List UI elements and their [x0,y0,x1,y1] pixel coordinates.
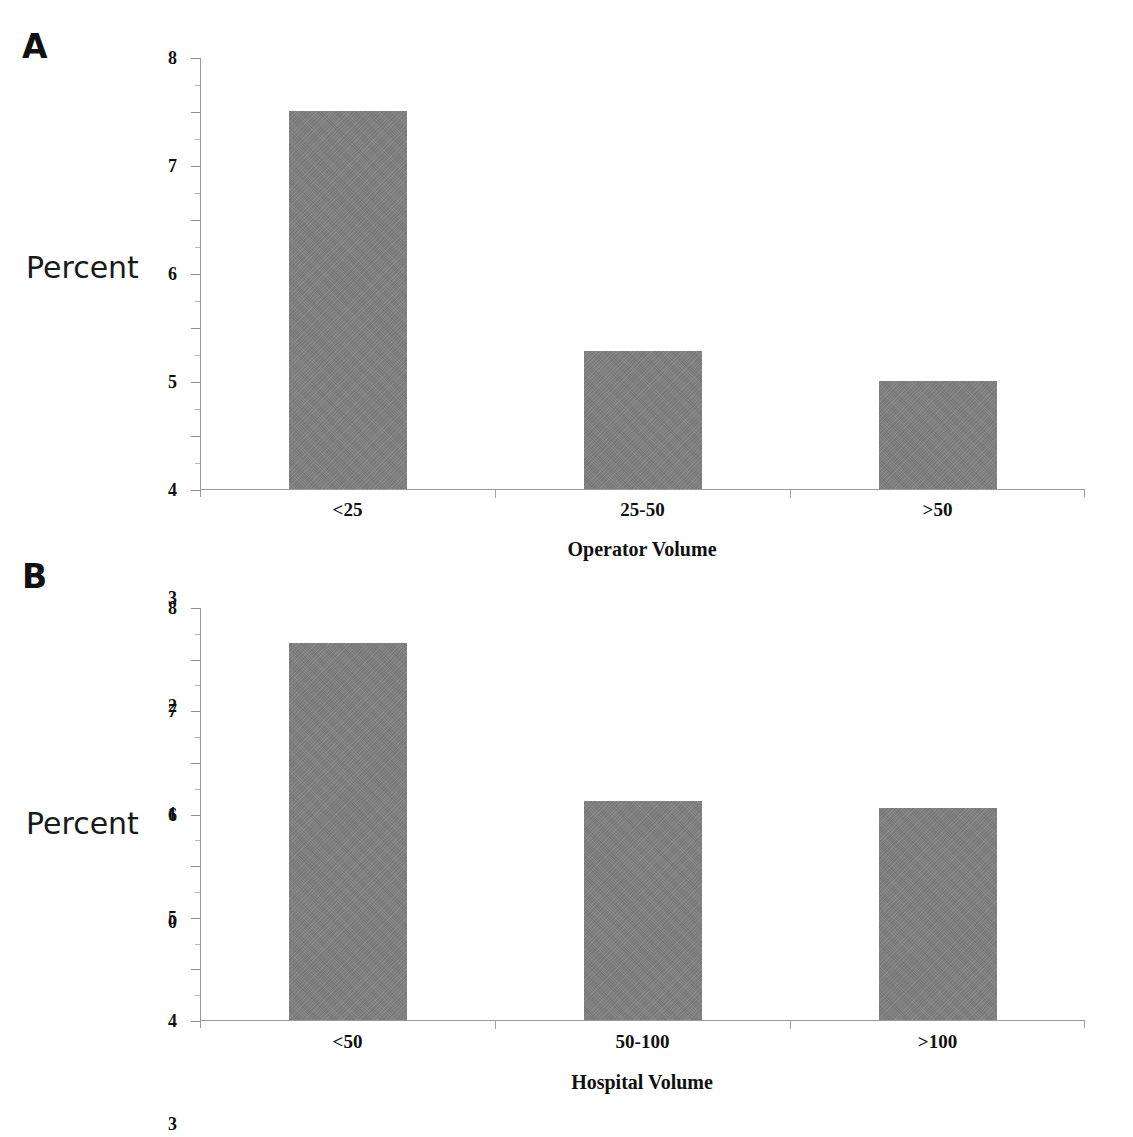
y-tick-major: 0 [191,1021,200,1022]
bar [289,643,407,1020]
y-axis-title-b: Percent [26,809,139,839]
y-axis-line-a [200,58,201,490]
y-tick-minor [195,840,200,841]
bar [584,351,702,489]
y-tick-label: 8 [168,49,177,67]
y-tick-minor [195,685,200,686]
y-tick-label: 4 [168,1012,177,1030]
y-axis-title-a: Percent [26,253,139,283]
y-tick-major: 5 [191,763,200,764]
y-tick-minor [195,737,200,738]
x-separator-tick [790,489,791,498]
y-tick-minor [195,789,200,790]
category-label: <50 [333,1032,363,1051]
y-tick-major: 3 [191,866,200,867]
x-axis-title-b: Hospital Volume [571,1072,713,1092]
y-tick-minor [195,193,200,194]
bar [289,111,407,489]
panel-b: B Percent 012345678 <5050-100>100 Hospit… [0,550,1133,1137]
y-tick-label: 4 [168,481,177,499]
y-axis-line-b [200,608,201,1021]
y-tick-label: 7 [168,702,177,720]
panel-letter-b: B [22,560,47,593]
x-separator-tick [495,1020,496,1029]
y-tick-major: 7 [191,660,200,661]
category-label: <25 [333,500,363,519]
y-tick-major: 1 [191,436,200,437]
category-label: 50-100 [616,1032,670,1051]
figure-two-panel-bar-charts: A Percent 012345678 <2525-50>50 Operator… [0,0,1133,1137]
bar [584,801,702,1020]
x-separator-tick [790,1020,791,1029]
y-tick-major: 8 [191,608,200,609]
y-tick-minor [195,944,200,945]
x-axis-line-b [200,1020,1085,1021]
y-tick-major: 4 [191,274,200,275]
category-label: >100 [918,1032,957,1051]
panel-letter-a: A [22,30,48,63]
y-tick-minor [195,409,200,410]
y-tick-label: 6 [168,806,177,824]
x-axis-left-stub-a [200,489,201,497]
x-axis-line-a [200,489,1085,490]
x-axis-right-stub-b [1084,1020,1085,1028]
y-tick-label: 8 [168,599,177,617]
y-tick-minor [195,85,200,86]
category-label: >50 [923,500,953,519]
bar [879,808,997,1020]
y-tick-major: 2 [191,382,200,383]
y-tick-major: 1 [191,969,200,970]
y-tick-minor [195,301,200,302]
y-tick-minor [195,355,200,356]
y-tick-major: 2 [191,918,200,919]
y-tick-major: 0 [191,490,200,491]
y-tick-minor [195,634,200,635]
y-tick-label: 3 [168,1115,177,1133]
y-tick-minor [195,139,200,140]
y-tick-major: 4 [191,815,200,816]
y-tick-minor [195,892,200,893]
y-tick-major: 3 [191,328,200,329]
category-label: 25-50 [620,500,664,519]
x-separator-tick [495,489,496,498]
y-tick-major: 5 [191,220,200,221]
plot-area-a: 012345678 [200,58,1085,490]
y-tick-minor [195,995,200,996]
y-tick-minor [195,247,200,248]
y-tick-major: 8 [191,58,200,59]
y-tick-label: 7 [168,157,177,175]
bar [879,381,997,489]
y-tick-label: 5 [168,909,177,927]
y-tick-label: 5 [168,373,177,391]
panel-a: A Percent 012345678 <2525-50>50 Operator… [0,0,1133,568]
y-tick-major: 7 [191,112,200,113]
x-axis-right-stub-a [1084,489,1085,497]
y-tick-label: 6 [168,265,177,283]
x-axis-left-stub-b [200,1020,201,1028]
y-tick-major: 6 [191,166,200,167]
plot-area-b: 012345678 [200,608,1085,1021]
y-tick-major: 6 [191,711,200,712]
y-tick-minor [195,463,200,464]
